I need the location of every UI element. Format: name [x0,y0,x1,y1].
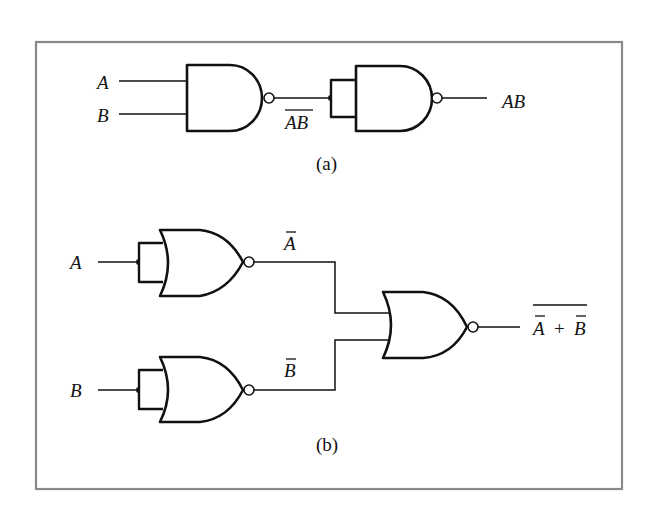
tied-input-loop-a [331,80,356,117]
nor-gate-final [383,292,467,358]
logic-gate-figure: A B AB AB (a) A A B [0,0,648,519]
label-input-a: A [95,72,109,93]
label-input-b: B [97,105,109,126]
label-input-a-b: A [68,252,82,273]
caption-a: (a) [316,153,337,175]
label-output-plus: + [554,318,565,339]
nor-gate-a [160,230,243,296]
nand-gate-2 [356,66,432,131]
figure-frame [36,42,622,489]
nor-gate-b-bubble [244,385,254,395]
wire-not-a [254,262,390,313]
label-not-b: B [284,360,296,381]
label-output-term-a: A [531,318,545,339]
tied-input-loop-nor-b [139,370,163,409]
label-output-a: AB [500,91,526,112]
wire-not-b [254,340,390,390]
nand-gate-2-bubble [432,93,442,103]
label-output-term-b: B [574,318,586,339]
label-not-a: A [282,233,296,254]
tied-input-loop-nor-a [139,243,163,282]
part-a-diagram: A B AB AB (a) [95,65,526,175]
label-intermediate: AB [283,112,309,133]
nor-gate-a-bubble [244,257,254,267]
label-input-b-b: B [70,380,82,401]
nand-gate-1 [187,65,262,131]
label-output-b: A + B [531,305,587,339]
nor-gate-b [160,357,243,422]
nor-gate-final-bubble [468,322,478,332]
part-b-diagram: A A B B A + B [68,230,587,456]
nand-gate-1-bubble [264,93,274,103]
caption-b: (b) [316,434,338,456]
